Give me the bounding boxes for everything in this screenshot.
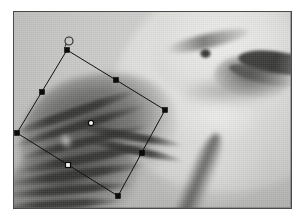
handle-corner-left[interactable] [15,131,20,136]
handle-center-pivot[interactable] [88,120,93,125]
handle-corner-bottom[interactable] [116,194,121,199]
handle-mid-top-right[interactable] [114,78,119,83]
screenshot-root [0,0,297,220]
handle-corner-right[interactable] [163,108,168,113]
rotation-grip-tail-icon [65,44,66,47]
handle-corner-top[interactable] [65,48,70,53]
handle-mid-right-bottom[interactable] [140,151,145,156]
handle-mid-left-top[interactable] [40,90,45,95]
selection-overlay[interactable] [0,0,297,220]
handle-mid-bottom-left[interactable] [66,163,71,168]
